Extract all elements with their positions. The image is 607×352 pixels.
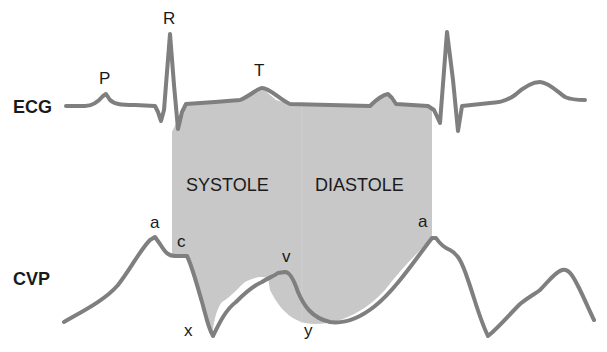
- r-wave-label: R: [163, 9, 175, 28]
- cvp-v-wave-label: v: [282, 247, 291, 266]
- ecg-cvp-diagram: ECG CVP P R T SYSTOLE DIASTOLE a c x v y…: [0, 0, 607, 352]
- cvp-y-descent-label: y: [304, 321, 313, 340]
- cvp-a-wave-label: a: [150, 213, 160, 232]
- diagram-canvas: ECG CVP P R T SYSTOLE DIASTOLE a c x v y…: [0, 0, 607, 352]
- cvp-row-label: CVP: [13, 269, 50, 289]
- p-wave-label: P: [99, 69, 110, 88]
- systole-label: SYSTOLE: [186, 175, 269, 195]
- t-wave-label: T: [254, 61, 264, 80]
- cvp-a-wave-label-2: a: [418, 212, 428, 231]
- ecg-row-label: ECG: [13, 97, 52, 117]
- diastole-label: DIASTOLE: [315, 175, 404, 195]
- cvp-c-wave-label: c: [177, 232, 186, 251]
- cvp-x-descent-label: x: [184, 321, 193, 340]
